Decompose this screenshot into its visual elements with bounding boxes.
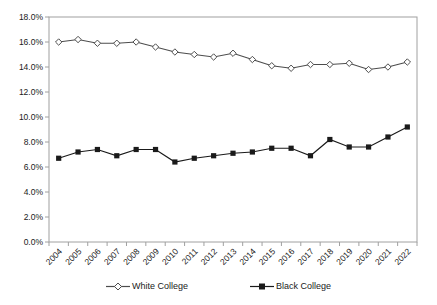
y-axis-tick-label: 18.0%	[19, 12, 44, 22]
data-point-marker	[307, 61, 313, 67]
x-axis-tick-label: 2018	[315, 246, 336, 267]
x-axis-tick-label: 2007	[102, 246, 123, 267]
data-point-marker	[172, 159, 177, 164]
data-point-marker	[346, 60, 352, 66]
y-axis-tick-label: 12.0%	[19, 87, 44, 97]
data-point-marker	[405, 124, 410, 129]
data-point-marker	[347, 144, 352, 149]
data-point-marker	[210, 54, 216, 60]
data-point-marker	[250, 149, 255, 154]
x-axis-tick-label: 2017	[295, 246, 316, 267]
x-axis-tick-label: 2010	[160, 246, 181, 267]
data-point-marker	[75, 36, 81, 42]
y-axis-tick-label: 16.0%	[19, 37, 44, 47]
x-axis-tick-label: 2011	[180, 246, 200, 266]
x-axis-tick-label: 2019	[334, 246, 355, 267]
x-axis-tick-label: 2009	[140, 246, 161, 267]
x-axis-tick-label: 2020	[354, 246, 375, 267]
y-axis-tick-label: 8.0%	[24, 137, 44, 147]
legend-label-white-college: White College	[132, 281, 188, 291]
legend-item-black-college: Black College	[250, 281, 331, 291]
data-point-marker	[55, 39, 61, 45]
y-axis-tick-label: 4.0%	[24, 187, 44, 197]
y-axis-tick-label: 2.0%	[24, 212, 44, 222]
data-point-marker	[114, 40, 120, 46]
data-point-marker	[230, 151, 235, 156]
chart-figure: 0.0%2.0%4.0%6.0%8.0%10.0%12.0%14.0%16.0%…	[0, 0, 437, 305]
x-axis-tick-label: 2012	[199, 246, 220, 267]
data-point-marker	[249, 56, 255, 62]
data-point-marker	[366, 144, 371, 149]
data-point-marker	[114, 153, 119, 158]
x-axis-tick-label: 2006	[82, 246, 103, 267]
chart-legend: White College Black College	[0, 281, 437, 291]
data-point-marker	[134, 147, 139, 152]
data-point-marker	[365, 66, 371, 72]
data-point-marker	[153, 147, 158, 152]
x-axis-tick-label: 2004	[44, 246, 65, 267]
data-point-marker	[211, 153, 216, 158]
x-axis-tick-label: 2021	[373, 246, 394, 267]
line-chart-canvas: 0.0%2.0%4.0%6.0%8.0%10.0%12.0%14.0%16.0%…	[0, 0, 437, 305]
data-point-marker	[152, 44, 158, 50]
y-axis-tick-label: 14.0%	[19, 62, 44, 72]
series-line-1	[59, 127, 408, 162]
open-diamond-marker-icon	[106, 282, 130, 291]
data-point-marker	[269, 146, 274, 151]
data-point-marker	[404, 59, 410, 65]
x-axis-tick-label: 2015	[257, 246, 278, 267]
data-point-marker	[327, 137, 332, 142]
data-point-marker	[385, 64, 391, 70]
data-point-marker	[95, 147, 100, 152]
x-axis-tick-label: 2005	[63, 246, 84, 267]
legend-label-black-college: Black College	[276, 281, 331, 291]
data-point-marker	[94, 40, 100, 46]
data-point-marker	[75, 149, 80, 154]
data-point-marker	[133, 39, 139, 45]
x-axis-tick-label: 2013	[218, 246, 239, 267]
data-point-marker	[192, 156, 197, 161]
x-axis-tick-label: 2022	[392, 246, 413, 267]
x-axis-tick-label: 2014	[237, 246, 258, 267]
data-point-marker	[172, 49, 178, 55]
y-axis-tick-label: 0.0%	[24, 237, 44, 247]
data-point-marker	[288, 65, 294, 71]
data-point-marker	[191, 51, 197, 57]
data-point-marker	[308, 153, 313, 158]
data-point-marker	[56, 156, 61, 161]
data-point-marker	[327, 61, 333, 67]
data-point-marker	[230, 50, 236, 56]
filled-square-marker-icon	[250, 282, 274, 291]
y-axis-tick-label: 10.0%	[19, 112, 44, 122]
data-point-marker	[269, 63, 275, 69]
data-point-marker	[289, 146, 294, 151]
data-point-marker	[385, 134, 390, 139]
y-axis-tick-label: 6.0%	[24, 162, 44, 172]
legend-item-white-college: White College	[106, 281, 188, 291]
x-axis-tick-label: 2016	[276, 246, 297, 267]
x-axis-tick-label: 2008	[121, 246, 142, 267]
